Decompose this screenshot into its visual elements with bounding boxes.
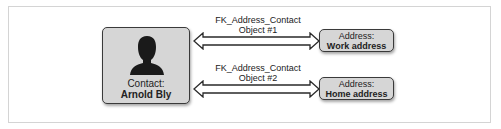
contact-label: Contact: bbox=[103, 78, 189, 89]
address-value: Work address bbox=[320, 41, 393, 51]
double-arrow-2 bbox=[193, 80, 320, 98]
double-arrow-1 bbox=[193, 32, 320, 50]
address-entity-box-work: Address: Work address bbox=[319, 29, 394, 52]
person-silhouette-icon bbox=[128, 34, 166, 76]
contact-name: Arnold Bly bbox=[103, 89, 189, 100]
relationship-name: FK_Address_Contact bbox=[193, 63, 323, 73]
contact-entity-box: Contact: Arnold Bly bbox=[102, 27, 190, 104]
address-entity-box-home: Address: Home address bbox=[319, 77, 394, 100]
address-label: Address: bbox=[320, 79, 393, 89]
relationship-name: FK_Address_Contact bbox=[193, 15, 323, 25]
address-value: Home address bbox=[320, 89, 393, 99]
address-label: Address: bbox=[320, 31, 393, 41]
